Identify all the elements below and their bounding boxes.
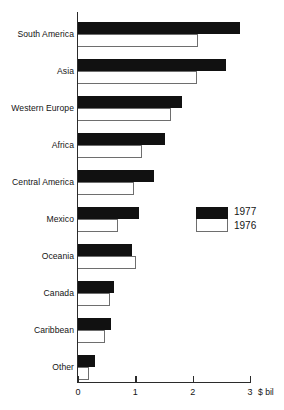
category-label: Western Europe (0, 103, 74, 114)
chart-category-row: Caribbean (0, 318, 284, 352)
legend-swatch-1976-icon (196, 219, 228, 232)
x-tick-label: 2 (183, 387, 203, 397)
bar-1976-central-america (78, 182, 134, 195)
x-tick-label: 0 (68, 387, 88, 397)
chart-category-row: Asia (0, 59, 284, 93)
bar-1977-africa (78, 133, 165, 145)
bar-1976-other (78, 367, 89, 380)
bar-1977-oceania (78, 244, 132, 256)
chart-category-row: Other (0, 355, 284, 389)
bar-1977-canada (78, 281, 114, 293)
category-label: Canada (0, 288, 74, 299)
category-label: Other (0, 362, 74, 373)
bar-1976-mexico (78, 219, 118, 232)
x-tick-mark (193, 376, 194, 383)
bar-1977-asia (78, 59, 226, 71)
x-tick-mark (135, 376, 136, 383)
x-tick-label: 3 (240, 387, 260, 397)
chart-category-row: Western Europe (0, 96, 284, 130)
category-label: Central America (0, 177, 74, 188)
bar-1976-asia (78, 71, 197, 84)
x-tick-label: 1 (125, 387, 145, 397)
category-label: Caribbean (0, 325, 74, 336)
bar-1976-oceania (78, 256, 136, 269)
bar-1976-western-europe (78, 108, 171, 121)
chart-category-row: Canada (0, 281, 284, 315)
bar-1976-south-america (78, 34, 198, 47)
x-axis-unit-label: $ bil (258, 387, 274, 397)
bar-1977-mexico (78, 207, 139, 219)
bar-chart: South AmericaAsiaWestern EuropeAfricaCen… (0, 0, 284, 410)
category-label: Mexico (0, 214, 74, 225)
bar-1976-canada (78, 293, 110, 306)
legend-label-1976: 1976 (234, 220, 256, 231)
bar-1977-south-america (78, 22, 240, 34)
category-label: Asia (0, 66, 74, 77)
legend-swatch-1977-icon (196, 207, 228, 219)
chart-category-row: Central America (0, 170, 284, 204)
x-tick-mark (250, 376, 251, 383)
chart-category-row: Africa (0, 133, 284, 167)
bar-1976-caribbean (78, 330, 105, 343)
chart-category-row: South America (0, 22, 284, 56)
category-label: Oceania (0, 251, 74, 262)
category-label: South America (0, 29, 74, 40)
bar-1976-africa (78, 145, 142, 158)
category-label: Africa (0, 140, 74, 151)
bar-1977-caribbean (78, 318, 111, 330)
bar-1977-central-america (78, 170, 154, 182)
chart-category-row: Oceania (0, 244, 284, 278)
bar-1977-western-europe (78, 96, 182, 108)
bar-1977-other (78, 355, 95, 367)
x-tick-mark (78, 376, 79, 383)
legend-label-1977: 1977 (234, 206, 256, 217)
